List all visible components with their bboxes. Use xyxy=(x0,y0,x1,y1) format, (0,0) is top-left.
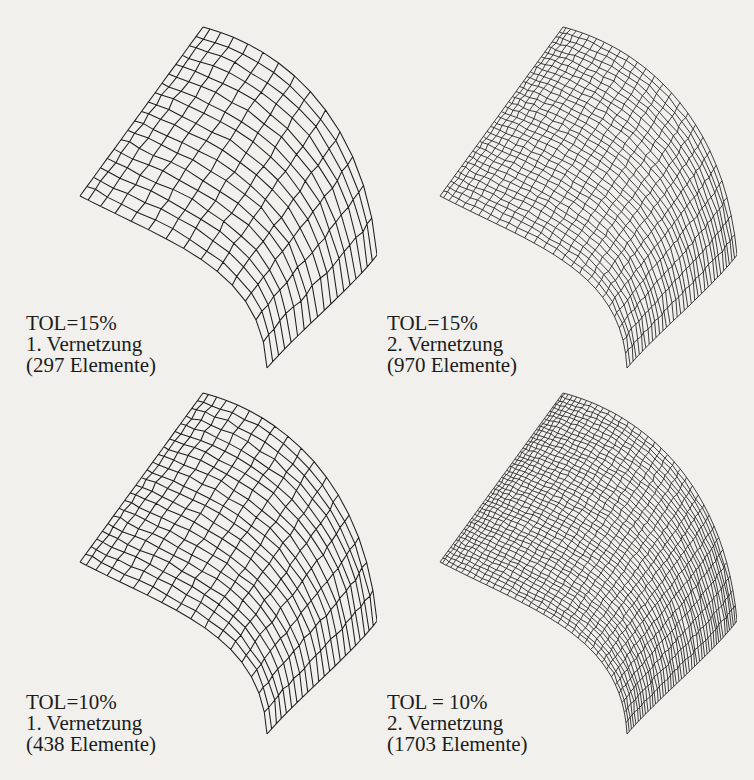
tolerance-label: TOL = 10% xyxy=(387,692,528,713)
tolerance-label: TOL=10% xyxy=(26,692,156,713)
mesh-grid-lines xyxy=(80,393,377,734)
mesh-grid-lines xyxy=(440,393,737,734)
mesh-step-label: 1. Vernetzung xyxy=(26,713,156,734)
caption-tol10-second: TOL = 10% 2. Vernetzung (1703 Elemente) xyxy=(387,692,528,755)
tolerance-label: TOL=15% xyxy=(26,313,156,334)
element-count-label: (1703 Elemente) xyxy=(387,734,528,755)
tolerance-label: TOL=15% xyxy=(387,313,517,334)
mesh-step-label: 2. Vernetzung xyxy=(387,713,528,734)
caption-tol10-first: TOL=10% 1. Vernetzung (438 Elemente) xyxy=(26,692,156,755)
mesh-step-label: 1. Vernetzung xyxy=(26,334,156,355)
mesh-step-label: 2. Vernetzung xyxy=(387,334,517,355)
element-count-label: (438 Elemente) xyxy=(26,734,156,755)
